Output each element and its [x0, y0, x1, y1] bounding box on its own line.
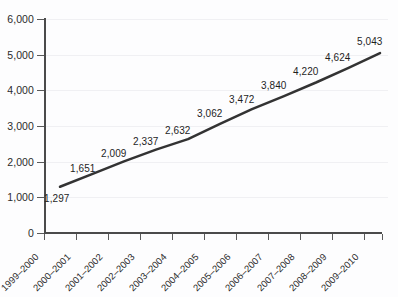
data-label: 2,009 — [101, 148, 127, 159]
data-label: 2,632 — [165, 125, 191, 136]
data-label: 5,043 — [357, 36, 383, 47]
data-label: 4,624 — [325, 52, 351, 63]
series-line-svg — [0, 0, 398, 297]
data-label: 2,337 — [133, 136, 159, 147]
data-label: 1,297 — [44, 193, 70, 204]
data-label: 3,062 — [197, 108, 223, 119]
chart-figure: 6,000 5,000 4,000 3,000 2,000 1,000 0 19… — [0, 0, 398, 297]
data-label: 4,220 — [293, 66, 319, 77]
data-label: 3,472 — [229, 94, 255, 105]
series-line — [60, 53, 380, 187]
data-label: 1,651 — [70, 163, 96, 174]
data-label: 3,840 — [261, 80, 287, 91]
